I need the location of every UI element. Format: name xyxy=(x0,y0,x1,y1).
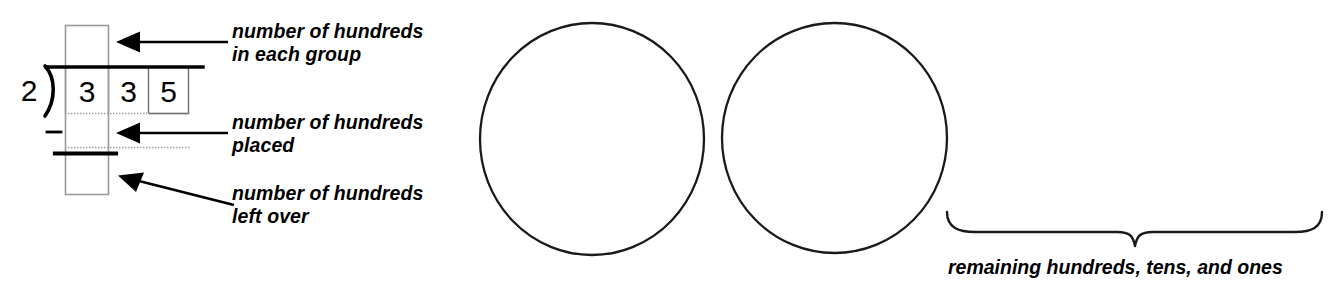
callout-label-hundreds-left-over: number of hundreds left over xyxy=(232,182,452,228)
arrow-left-up-icon-3 xyxy=(118,173,234,206)
divisor-value: 2 xyxy=(16,76,42,106)
place-value-column-guide xyxy=(66,26,109,195)
dividend-digit-hundreds: 3 xyxy=(66,77,108,107)
group-circle-2 xyxy=(722,23,947,253)
arrow-left-icon-1 xyxy=(116,32,228,53)
brace-caption: remaining hundreds, tens, and ones xyxy=(948,256,1283,279)
callout-label-hundreds-in-each-group: number of hundreds in each group xyxy=(232,20,452,66)
callout-label-hundreds-placed: number of hundreds placed xyxy=(232,111,452,157)
arrow-left-icon-2 xyxy=(116,123,228,144)
curly-brace-bottom-icon xyxy=(947,212,1322,246)
diagram-vector-layer xyxy=(0,0,1330,292)
diagram-canvas: 2 3 3 5 number of hundreds in each group… xyxy=(0,0,1330,292)
group-circle-1 xyxy=(480,23,704,255)
dividend-digit-ones: 5 xyxy=(149,77,188,107)
dividend-digit-tens: 3 xyxy=(109,77,148,107)
